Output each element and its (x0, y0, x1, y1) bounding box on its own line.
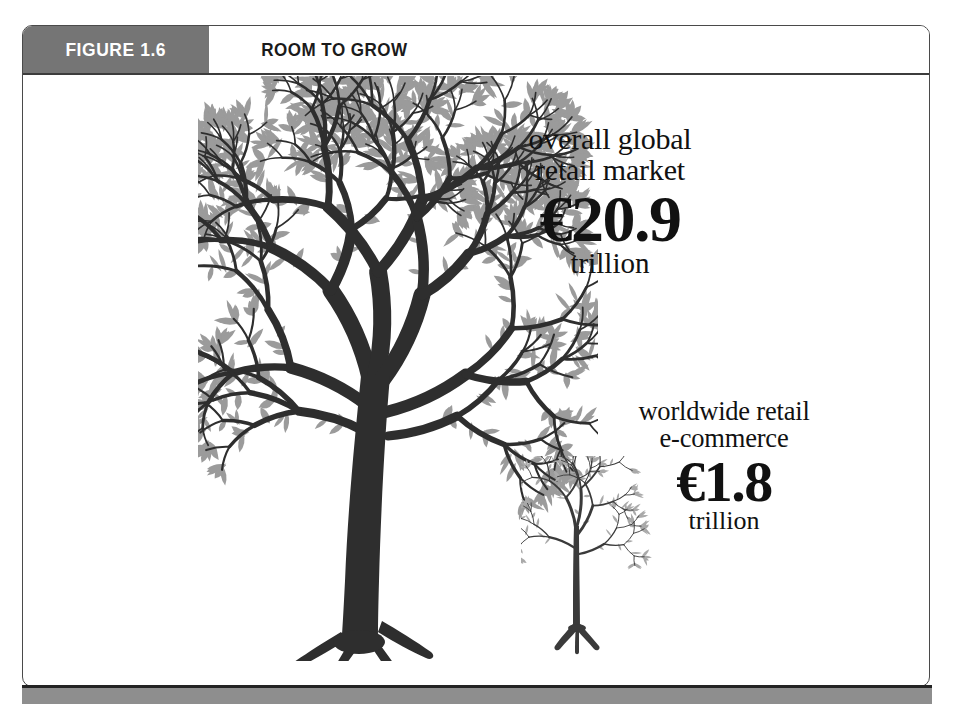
figure-number-block: FIGURE 1.6 (23, 26, 209, 73)
callout-unit: trillion (455, 249, 765, 279)
callout-unit: trillion (576, 508, 872, 535)
bottom-bar (22, 688, 932, 704)
callout-worldwide-retail-ecommerce: worldwide retail e-commerce €1.8 trillio… (576, 398, 872, 535)
figure-header: FIGURE 1.6 ROOM TO GROW (23, 26, 929, 73)
figure-title-block: ROOM TO GROW (209, 26, 929, 73)
figure-number-label: FIGURE 1.6 (66, 39, 167, 61)
figure-page: FIGURE 1.6 ROOM TO GROW (0, 0, 957, 718)
callout-caption-line1: overall global (455, 124, 765, 155)
callout-caption-line2: e-commerce (576, 425, 872, 452)
callout-caption-line2: retail market (455, 155, 765, 186)
callout-amount: €20.9 (455, 186, 765, 252)
callout-amount: €1.8 (576, 453, 872, 511)
callout-caption-line1: worldwide retail (576, 398, 872, 425)
illustration-area: overall global retail market €20.9 trill… (23, 76, 929, 661)
callout-overall-global-retail-market: overall global retail market €20.9 trill… (455, 124, 765, 279)
figure-title-label: ROOM TO GROW (261, 39, 407, 61)
